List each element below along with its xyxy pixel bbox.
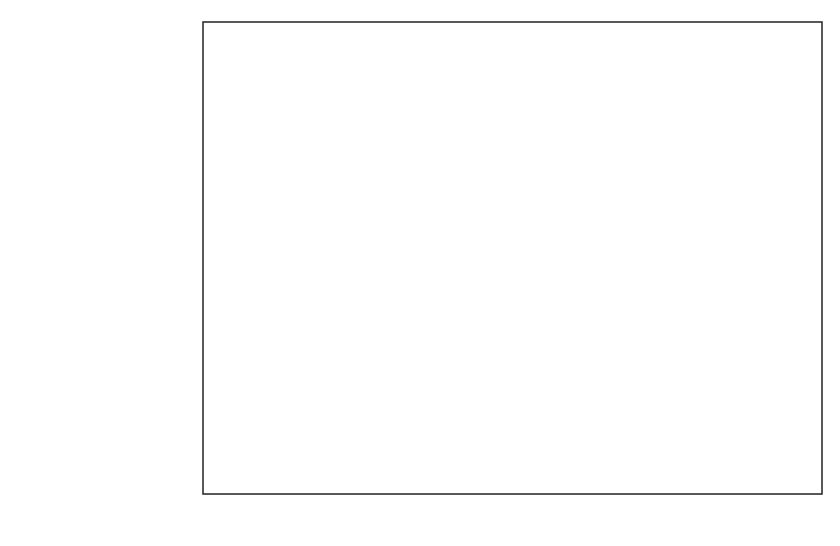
plot-frame xyxy=(203,22,822,494)
bar-chart xyxy=(0,0,840,546)
